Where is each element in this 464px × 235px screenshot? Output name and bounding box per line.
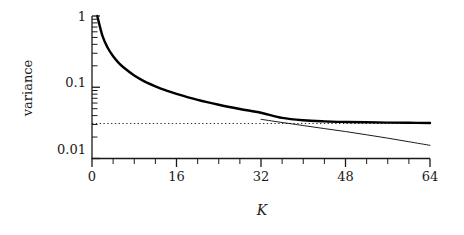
x-tick-label-48: 48 [337, 169, 354, 184]
plot-background [0, 0, 464, 235]
y-tick-label-0.01: 0.01 [57, 142, 86, 157]
x-tick-label-16: 16 [168, 169, 185, 184]
y-axis-title: variance [20, 59, 35, 117]
x-tick-label-32: 32 [253, 169, 270, 184]
chart-figure: 1 0.1 0.01 0 16 32 48 64 variance K [0, 0, 464, 235]
y-tick-label-0.1: 0.1 [65, 75, 86, 90]
variance-vs-k-plot: 1 0.1 0.01 0 16 32 48 64 variance K [0, 0, 464, 235]
x-axis-title: K [256, 202, 269, 218]
x-tick-label-64: 64 [422, 169, 439, 184]
x-tick-label-0: 0 [88, 169, 96, 184]
y-tick-label-1: 1 [78, 9, 86, 24]
